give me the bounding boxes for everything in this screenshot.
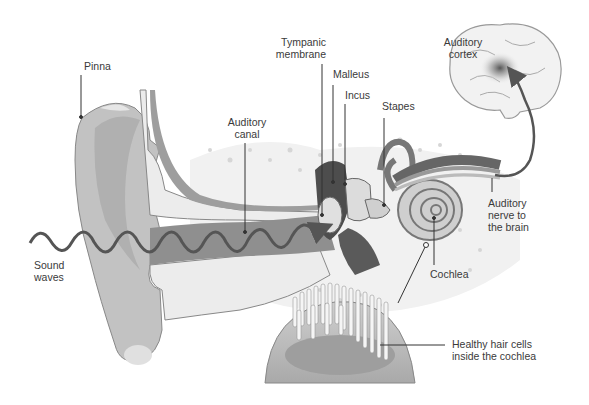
label-sound-waves-line2: waves: [34, 271, 64, 283]
label-hair-cells-line2: inside the cochlea: [452, 350, 536, 362]
cochlea-shape: [398, 180, 462, 240]
label-cochlea: Cochlea: [430, 268, 469, 280]
label-sound-waves: Sound waves: [34, 259, 64, 283]
label-hair-cells-line1: Healthy hair cells: [452, 338, 536, 350]
ear-anatomy-diagram: Pinna Auditory canal Tympanic membrane M…: [0, 0, 589, 405]
label-tympanic-line1: Tympanic: [268, 36, 326, 48]
label-auditory-cortex-line2: cortex: [438, 48, 488, 60]
label-auditory-canal-line2: canal: [222, 128, 272, 140]
label-auditory-canal-line1: Auditory: [222, 116, 272, 128]
label-pinna: Pinna: [84, 60, 111, 72]
label-auditory-cortex: Auditory cortex: [438, 36, 488, 60]
label-auditory-canal: Auditory canal: [222, 116, 272, 140]
label-auditory-cortex-line1: Auditory: [438, 36, 488, 48]
label-incus: Incus: [345, 89, 370, 101]
label-auditory-nerve-line3: the brain: [488, 221, 529, 233]
label-malleus: Malleus: [333, 68, 369, 80]
label-stapes: Stapes: [382, 100, 415, 112]
label-tympanic-membrane: Tympanic membrane: [268, 36, 326, 60]
label-auditory-nerve: Auditory nerve to the brain: [488, 197, 529, 233]
label-auditory-nerve-line2: nerve to: [488, 209, 529, 221]
label-auditory-nerve-line1: Auditory: [488, 197, 529, 209]
label-sound-waves-line1: Sound: [34, 259, 64, 271]
label-hair-cells: Healthy hair cells inside the cochlea: [452, 338, 536, 362]
label-tympanic-line2: membrane: [268, 48, 326, 60]
